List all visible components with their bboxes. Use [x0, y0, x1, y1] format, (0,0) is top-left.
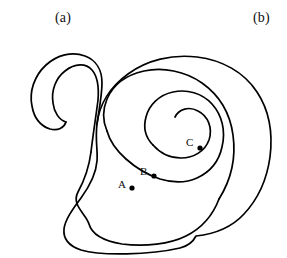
spiral-tail-outer-path [31, 54, 102, 130]
point-dot-C [197, 145, 202, 150]
spiral-turn3-path [107, 91, 224, 182]
point-label-c: C [186, 136, 193, 148]
panel-label-a: (a) [55, 10, 71, 26]
spiral-turn2-inner-path [76, 152, 219, 245]
point-dot-A [129, 185, 134, 190]
panel-label-b: (b) [253, 10, 270, 26]
point-dot-B [151, 173, 156, 178]
spiral-tail-inner-path [53, 65, 99, 152]
spiral-band-strokes [31, 54, 271, 254]
point-label-a: A [118, 178, 126, 190]
point-label-b: B [140, 165, 147, 177]
spiral-drawing [0, 0, 287, 258]
figure-canvas: (a) (b) A B C [0, 0, 287, 258]
spiral-inner-tip-path [153, 109, 210, 158]
